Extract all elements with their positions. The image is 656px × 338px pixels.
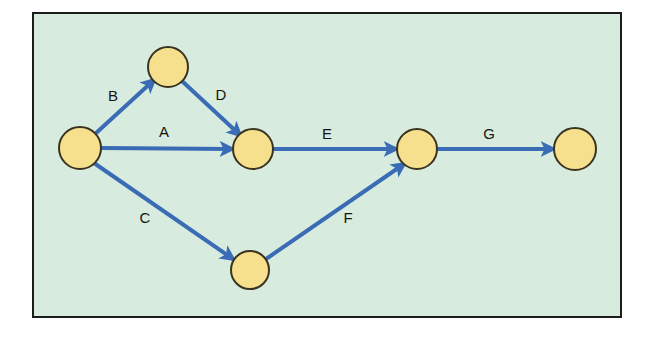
edge-label-f: F xyxy=(343,209,352,226)
graph-node-n3 xyxy=(233,129,273,169)
edge-label-g: G xyxy=(483,125,495,142)
edge-label-a: A xyxy=(159,123,169,140)
edge-label-c: C xyxy=(140,209,151,226)
graph-node-n2 xyxy=(148,47,188,87)
edge-label-d: D xyxy=(216,86,227,103)
graph-node-n1 xyxy=(59,127,101,169)
diagram-frame xyxy=(33,13,621,317)
edge-label-b: B xyxy=(108,87,118,104)
graph-node-n5 xyxy=(397,129,437,169)
network-diagram-svg: BADCEFG xyxy=(0,0,656,338)
graph-node-n6 xyxy=(554,128,596,170)
edge-label-e: E xyxy=(322,125,332,142)
graph-node-n4 xyxy=(231,251,269,289)
edge-a xyxy=(101,148,232,149)
diagram-root: BADCEFG xyxy=(0,0,656,338)
